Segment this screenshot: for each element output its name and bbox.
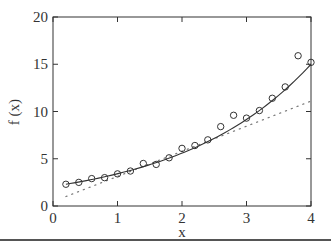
y-tick-label: 10 [33,104,48,120]
plot-frame [53,17,311,206]
y-tick-label: 15 [33,56,48,72]
x-tick-label: 1 [114,210,122,226]
y-tick-label: 20 [33,9,48,25]
data-markers [63,53,314,188]
data-point [140,160,146,166]
x-axis-label: x [178,224,186,240]
data-point [230,112,236,118]
data-point [295,53,301,59]
linear-fit-line [66,101,311,196]
plot-area [53,17,311,206]
data-point [179,145,185,151]
x-tick-label: 3 [243,210,251,226]
y-axis-label: f (x) [6,99,23,125]
y-tick-label: 5 [41,151,49,167]
axis-labels: x f (x) [6,99,186,240]
exponential-fit-line [66,64,311,184]
x-tick-label: 0 [49,210,57,226]
data-point [218,123,224,129]
y-tick-label: 0 [41,198,49,214]
bottom-divider [0,239,331,241]
chart: 0123405101520 x f (x) [0,0,331,248]
axis-ticks: 0123405101520 [33,9,315,226]
x-tick-label: 4 [307,210,315,226]
